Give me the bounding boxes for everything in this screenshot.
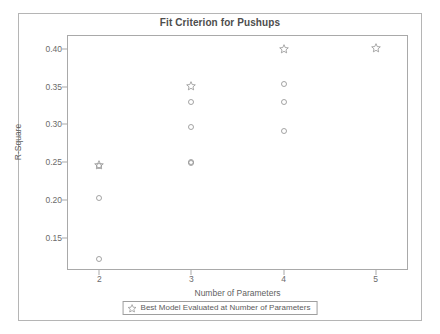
data-point-circle xyxy=(280,80,287,87)
x-tick-label: 5 xyxy=(373,274,378,284)
chart-legend: Best Model Evaluated at Number of Parame… xyxy=(123,301,318,315)
x-tick-mark xyxy=(283,270,284,275)
y-tick-label: 0.40 xyxy=(45,44,62,54)
y-tick-label: 0.30 xyxy=(45,119,62,129)
data-point-star xyxy=(94,160,104,170)
data-point-circle xyxy=(280,127,287,134)
data-point-circle xyxy=(188,160,195,167)
y-tick-label: 0.20 xyxy=(45,195,62,205)
star-icon xyxy=(128,304,137,313)
x-axis-title: Number of Parameters xyxy=(67,288,408,298)
x-tick-label: 4 xyxy=(281,274,286,284)
x-tick-mark xyxy=(191,270,192,275)
x-tick-label: 2 xyxy=(97,274,102,284)
plot-data-layer xyxy=(67,35,408,270)
legend-label: Best Model Evaluated at Number of Parame… xyxy=(141,303,311,313)
y-axis-title: R-Square xyxy=(13,102,23,182)
data-point-circle xyxy=(96,194,103,201)
y-tick-label: 0.25 xyxy=(45,157,62,167)
data-point-star xyxy=(371,43,381,53)
y-axis-ticks: 0.400.350.300.250.200.15 xyxy=(0,0,62,334)
data-point-circle xyxy=(96,256,103,263)
y-tick-label: 0.15 xyxy=(45,233,62,243)
data-point-circle xyxy=(280,98,287,105)
chart-figure: Fit Criterion for Pushups 0.400.350.300.… xyxy=(0,0,440,334)
data-point-star xyxy=(186,81,196,91)
data-point-circle xyxy=(188,99,195,106)
chart-title: Fit Criterion for Pushups xyxy=(0,17,440,28)
x-tick-label: 3 xyxy=(189,274,194,284)
y-tick-label: 0.35 xyxy=(45,82,62,92)
data-point-star xyxy=(279,44,289,54)
x-tick-mark xyxy=(375,270,376,275)
x-tick-mark xyxy=(99,270,100,275)
data-point-circle xyxy=(188,124,195,131)
